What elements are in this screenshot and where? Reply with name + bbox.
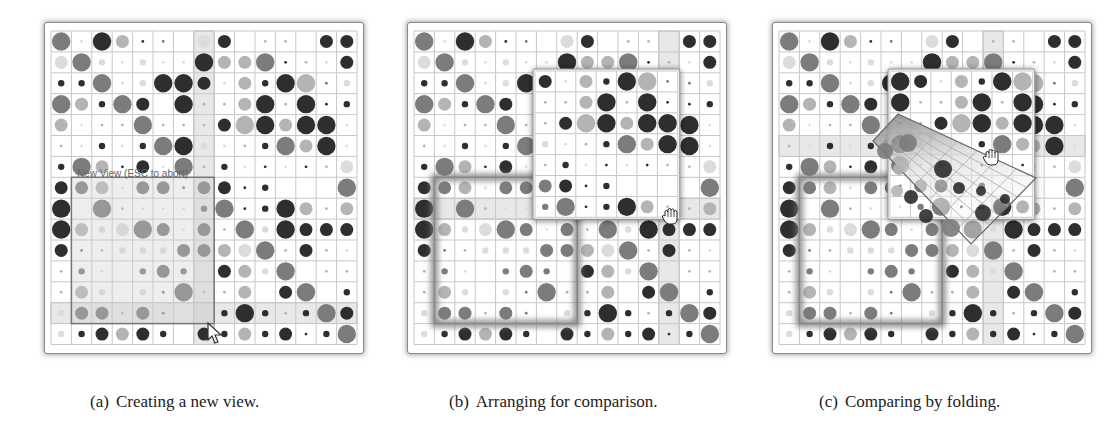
- matrix-cell: [891, 72, 909, 90]
- matrix-cell: [162, 40, 165, 43]
- matrix-c[interactable]: [773, 23, 1091, 353]
- matrix-cell: [1066, 325, 1084, 343]
- matrix-cell: [806, 331, 812, 337]
- matrix-cell: [627, 40, 630, 43]
- matrix-cell: [973, 114, 991, 132]
- caption-b: (b)Arranging for comparison.: [449, 392, 658, 412]
- matrix-cell: [827, 226, 833, 232]
- matrix-cell: [973, 93, 991, 111]
- matrix-cell: [1012, 249, 1015, 252]
- matrix-cell: [703, 202, 716, 215]
- matrix-cell: [910, 61, 913, 64]
- matrix-cell: [539, 75, 552, 88]
- matrix-view-c[interactable]: [772, 22, 1092, 354]
- matrix-cell: [824, 328, 837, 341]
- floating-view[interactable]: [533, 69, 680, 219]
- matrix-cell: [99, 101, 105, 107]
- matrix-cell: [800, 158, 818, 176]
- matrix-cell: [1013, 72, 1031, 90]
- matrix-cell: [966, 328, 979, 341]
- matrix-cell: [256, 95, 274, 113]
- matrix-cell: [215, 199, 233, 217]
- matrix-cell: [223, 228, 226, 231]
- matrix-cell: [868, 247, 874, 253]
- matrix-cell: [780, 199, 798, 217]
- matrix-cell: [443, 124, 446, 127]
- matrix-cell: [829, 124, 832, 127]
- matrix-cell: [323, 331, 329, 337]
- matrix-cell: [415, 95, 433, 113]
- matrix-cell: [926, 244, 939, 257]
- matrix-cell: [99, 143, 105, 149]
- matrix-cell: [668, 333, 671, 336]
- matrix-cell: [484, 82, 487, 85]
- matrix-cell: [438, 286, 451, 299]
- matrix-cell: [647, 312, 650, 315]
- matrix-cell: [464, 270, 467, 273]
- matrix-cell: [940, 80, 943, 83]
- matrix-cell: [462, 226, 468, 232]
- matrix-cell: [581, 35, 594, 48]
- matrix-cell: [926, 35, 939, 48]
- matrix-cell: [345, 145, 348, 148]
- matrix-cell: [708, 124, 711, 127]
- matrix-cell: [625, 268, 631, 274]
- matrix-cell: [545, 61, 548, 64]
- matrix-cell: [325, 249, 328, 252]
- matrix-cell: [951, 291, 954, 294]
- matrix-cell: [806, 80, 812, 86]
- matrix-cell: [1013, 114, 1031, 132]
- matrix-cell: [195, 53, 213, 71]
- matrix-b[interactable]: [408, 23, 726, 353]
- matrix-cell: [525, 312, 528, 315]
- caption-b-text: Arranging for comparison.: [476, 392, 658, 411]
- matrix-cell: [55, 56, 68, 69]
- matrix-cell: [443, 249, 446, 252]
- matrix-cell: [520, 223, 533, 236]
- matrix-cell: [300, 223, 313, 236]
- matrix-cell: [55, 181, 68, 194]
- matrix-cell: [1013, 93, 1031, 111]
- matrix-cell: [279, 119, 292, 132]
- matrix-cell: [1068, 35, 1081, 48]
- matrix-cell: [325, 165, 328, 168]
- matrix-cell: [946, 244, 959, 257]
- matrix-cell: [966, 286, 979, 299]
- matrix-cell: [844, 223, 857, 236]
- matrix-cell: [438, 98, 451, 111]
- matrix-cell: [803, 286, 816, 299]
- matrix-view-b[interactable]: [407, 22, 727, 354]
- matrix-cell: [990, 310, 996, 316]
- matrix-cell: [99, 59, 105, 65]
- matrix-cell: [438, 181, 451, 194]
- matrix-cell: [345, 270, 348, 273]
- matrix-cell: [786, 80, 792, 86]
- new-view-selection[interactable]: [71, 177, 214, 323]
- matrix-cell: [581, 265, 594, 278]
- matrix-cell: [1021, 164, 1024, 167]
- matrix-cell: [305, 165, 308, 168]
- matrix-cell: [238, 98, 251, 111]
- matrix-cell: [1068, 202, 1081, 215]
- matrix-cell: [284, 40, 287, 43]
- matrix-cell: [544, 101, 547, 104]
- matrix-cell: [584, 310, 590, 316]
- matrix-cell: [93, 74, 111, 92]
- matrix-cell: [827, 101, 833, 107]
- caption-c: (c)Comparing by folding.: [819, 392, 1000, 412]
- matrix-cell: [599, 220, 617, 238]
- matrix-view-a[interactable]: [44, 22, 364, 354]
- matrix-cell: [421, 80, 427, 86]
- matrix-cell: [435, 158, 453, 176]
- matrix-cell: [668, 61, 671, 64]
- matrix-cell: [52, 199, 70, 217]
- matrix-cell: [949, 310, 955, 316]
- matrix-cell: [660, 283, 678, 301]
- caption-c-label: (c): [819, 392, 838, 411]
- matrix-cell: [914, 75, 927, 88]
- matrix-cell: [940, 101, 943, 104]
- matrix-cell: [601, 265, 614, 278]
- matrix-cell: [1068, 56, 1081, 69]
- matrix-cell: [639, 262, 657, 280]
- matrix-a[interactable]: [45, 23, 363, 353]
